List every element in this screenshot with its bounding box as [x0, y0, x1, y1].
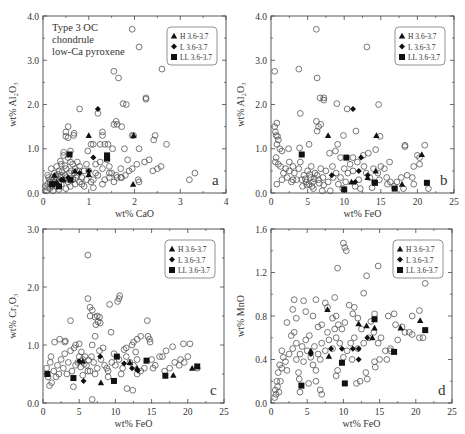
data-point-circle [129, 26, 135, 32]
data-point-circle [351, 304, 357, 310]
data-point-circle [303, 337, 309, 343]
data-point-circle [125, 157, 131, 163]
data-point-circle [48, 354, 54, 360]
data-point-circle [78, 364, 84, 370]
data-point-circle [89, 397, 95, 403]
data-point-circle [417, 308, 423, 314]
data-point-circle [312, 344, 318, 350]
y-axis-label: wt% Al₂O₃ [235, 82, 246, 126]
data-point-circle [306, 381, 312, 387]
data-point-circle [146, 157, 152, 163]
data-point-circle [296, 66, 302, 72]
data-point-diamond [365, 172, 371, 178]
legend-label: H 3.6-3.7 [180, 32, 209, 41]
data-point-circle [141, 365, 147, 371]
data-point-square [44, 371, 50, 377]
data-point-circle [315, 351, 321, 357]
data-point-circle [286, 159, 292, 165]
data-point-circle [185, 354, 191, 360]
data-point-circle [150, 168, 156, 174]
data-point-circle [378, 335, 384, 341]
data-point-circle [391, 311, 397, 317]
data-point-circle [100, 133, 106, 139]
data-point-circle [68, 318, 74, 324]
data-point-square [341, 186, 347, 192]
data-point-circle [149, 357, 155, 363]
annotation-line-1: Type 3 OC [52, 22, 98, 33]
data-point-circle [89, 342, 95, 348]
data-point-square [299, 152, 305, 158]
data-point-circle [136, 179, 142, 185]
data-point-square [422, 327, 428, 333]
data-point-circle [334, 101, 340, 107]
data-point-circle [107, 302, 113, 308]
data-point-circle [308, 164, 314, 170]
data-point-square [56, 183, 62, 189]
legend-label: LL 3.6-3.7 [180, 53, 212, 62]
legend-label: H 3.6-3.7 [406, 245, 435, 254]
data-point-circle [351, 335, 357, 341]
x-tick-label: 5 [305, 407, 310, 417]
data-point-circle [363, 370, 369, 376]
data-point-circle [335, 367, 341, 373]
data-point-circle [192, 170, 198, 176]
data-point-circle [339, 326, 345, 332]
x-tick-label: 15 [376, 197, 386, 207]
data-point-circle [422, 280, 428, 286]
data-point-circle [77, 106, 83, 112]
data-point-circle [375, 340, 381, 346]
data-point-circle [301, 298, 307, 304]
y-tick-label: 3.0 [27, 56, 39, 66]
data-point-circle [134, 161, 140, 167]
data-point-circle [361, 164, 367, 170]
data-point-circle [143, 96, 149, 102]
data-point-circle [318, 166, 324, 172]
data-point-circle [293, 315, 299, 321]
data-point-circle [338, 155, 344, 161]
data-point-circle [62, 351, 68, 357]
x-tick-label: 3 [178, 197, 183, 207]
data-point-circle [297, 110, 303, 116]
data-point-diamond [356, 357, 362, 363]
data-point-circle [314, 75, 320, 81]
data-point-circle [291, 297, 297, 303]
data-point-circle [290, 307, 296, 313]
data-point-circle [344, 106, 350, 112]
data-point-diamond [329, 172, 335, 178]
data-point-circle [355, 315, 361, 321]
panel-d-feo-vs-mno: 05101520250.00.40.81.21.6wt% FeOwt% MnOd… [235, 225, 457, 430]
data-point-circle [341, 166, 347, 172]
data-point-circle [90, 185, 96, 191]
data-point-square [372, 180, 378, 186]
data-point-circle [92, 371, 98, 377]
data-point-circle [357, 186, 363, 192]
data-point-circle [138, 333, 144, 339]
data-point-circle [119, 124, 125, 130]
data-point-circle [313, 297, 319, 303]
data-point-circle [361, 290, 367, 296]
data-point-circle [327, 150, 333, 156]
data-point-circle [313, 26, 319, 32]
data-point-circle [338, 175, 344, 181]
data-point-triangle [130, 181, 136, 187]
x-tick-label: 0 [269, 407, 274, 417]
data-point-circle [372, 364, 378, 370]
x-tick-label: 0 [269, 197, 274, 207]
data-point-square [49, 181, 55, 187]
data-point-circle [106, 164, 112, 170]
legend: H 3.6-3.7L 3.6-3.7LL 3.6-3.7 [395, 27, 445, 65]
data-point-circle [130, 387, 136, 393]
data-point-circle [335, 181, 341, 187]
data-point-circle [275, 370, 281, 376]
y-tick-label: 1.0 [255, 144, 267, 154]
data-point-circle [350, 311, 356, 317]
data-point-circle [359, 326, 365, 332]
y-tick-label: 0.0 [255, 399, 267, 409]
data-point-circle [402, 142, 408, 148]
data-point-circle [342, 320, 348, 326]
y-tick-label: 4.0 [27, 12, 39, 22]
panel-c-feo-vs-cr2o3: 05101520250.01.02.03.0wt% FeOwt% Cr₂O₃cH… [7, 225, 229, 430]
legend-label: L 3.6-3.7 [178, 256, 206, 265]
data-point-circle [100, 181, 106, 187]
data-point-triangle [417, 317, 423, 323]
